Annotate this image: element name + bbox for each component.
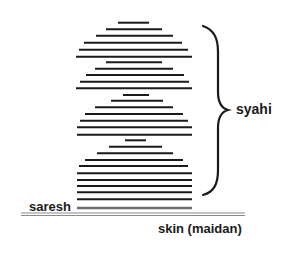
syahi-layers: [76, 23, 192, 200]
syahi-label: syahi: [236, 101, 272, 117]
skin-maidan-label: skin (maidan): [158, 221, 242, 236]
layer-diagram: syahi saresh skin (maidan): [0, 0, 283, 253]
curly-brace-icon: [203, 26, 228, 195]
saresh-label: saresh: [29, 199, 71, 214]
